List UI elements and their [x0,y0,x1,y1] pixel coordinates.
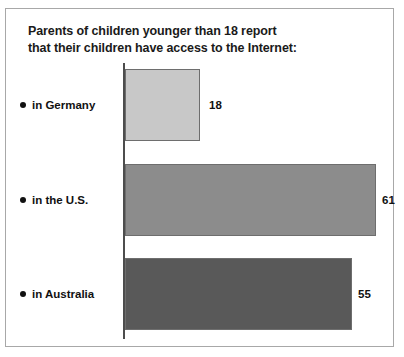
bar-us [125,164,376,236]
bar-germany [125,69,200,141]
bullet-icon [20,197,26,203]
category-label-text: in the U.S. [32,194,88,206]
category-label-us: in the U.S. [20,164,120,236]
chart-frame: Parents of children younger than 18 repo… [5,8,394,347]
bar-australia [125,258,352,330]
bar-row: in Australia 55 [6,258,393,330]
category-label-germany: in Germany [20,69,120,141]
category-label-text: in Australia [32,288,94,300]
bar-value-germany: 18 [209,69,222,141]
bar-row: in Germany 18 [6,69,393,141]
bullet-icon [20,102,26,108]
bullet-icon [20,291,26,297]
bar-row: in the U.S. 61 [6,164,393,236]
bar-value-australia: 55 [358,258,371,330]
bar-value-us: 61 [382,164,395,236]
category-label-text: in Germany [32,99,95,111]
category-label-australia: in Australia [20,258,120,330]
plot-area: in Germany 18 in the U.S. 61 in Australi… [6,9,393,346]
